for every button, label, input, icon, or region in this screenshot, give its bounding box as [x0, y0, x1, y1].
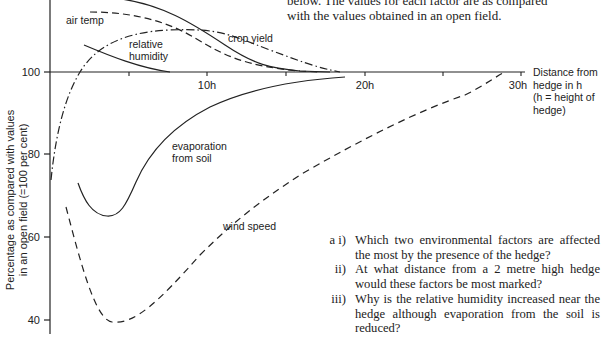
label-relative-humidity-2: humidity [129, 50, 169, 62]
y-tick-100: 100 [22, 66, 40, 78]
question-a-ii: ii) At what distance from a 2 metre high… [315, 262, 600, 291]
intro-line-2: with the values obtained in an open fiel… [287, 8, 606, 23]
question-a-i: a i) Which two environmental factors are… [315, 233, 600, 262]
y-axis-title-line2: in an open field (=100 per cent) [17, 124, 29, 277]
y-tick-60: 60 [28, 231, 40, 243]
x-axis-title-line1: Distance from [533, 66, 598, 79]
questions-block: a i) Which two environmental factors are… [315, 233, 600, 336]
intro-line-1: below. The values for each factor are as… [287, 0, 606, 8]
y-tick-40: 40 [28, 314, 40, 326]
label-evaporation-1: evaporation [172, 140, 227, 152]
x-axis-title-line2: hedge in h [533, 79, 598, 92]
x-axis-title: Distance from hedge in h (h = height of … [533, 66, 598, 116]
x-axis-title-line3: (h = height of [533, 91, 598, 104]
y-tick-80: 80 [28, 148, 40, 160]
question-a-iii: iii) Why is the relative humidity increa… [315, 292, 600, 336]
question-number: ii) [315, 262, 355, 291]
label-relative-humidity-1: relative [129, 38, 163, 50]
question-number: iii) [315, 292, 355, 336]
y-axis-title-line1: Percentage as compared with values [4, 109, 16, 290]
question-text: At what distance from a 2 metre high hed… [355, 262, 600, 291]
label-evaporation-2: from soil [172, 152, 212, 164]
label-wind-speed: wind speed [222, 220, 276, 232]
question-text: Why is the relative humidity increased n… [355, 292, 600, 336]
x-tick-20h: 20h [356, 79, 374, 91]
x-tick-10h: 10h [198, 79, 216, 91]
x-axis-title-line4: hedge) [533, 104, 598, 117]
intro-text: below. The values for each factor are as… [287, 0, 606, 23]
question-number: a i) [315, 233, 355, 262]
question-text: Which two environmental factors are affe… [355, 233, 600, 262]
air-temp-curve [90, 12, 320, 72]
label-crop-yield: crop yield [228, 32, 273, 44]
x-tick-30h: 30h [509, 79, 527, 91]
label-air-temp: air temp [66, 14, 104, 26]
y-ticks [44, 72, 50, 320]
